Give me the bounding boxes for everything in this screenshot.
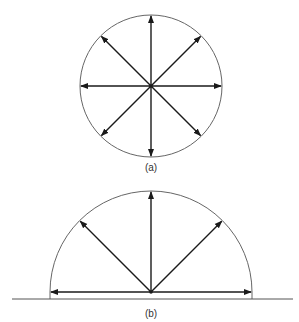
arrow-icon	[151, 221, 222, 292]
center-point	[149, 290, 153, 294]
arrow-icon	[151, 37, 200, 86]
center-point	[149, 84, 153, 88]
hemisphere-diagram	[12, 191, 293, 299]
arrow-icon	[80, 221, 151, 292]
arrow-icon	[102, 86, 151, 135]
arrow-icon	[102, 37, 151, 86]
figure-b-label: (b)	[145, 308, 157, 319]
arrow-icon	[151, 86, 200, 135]
isotropic-circle-diagram	[80, 15, 222, 157]
figure-a-label: (a)	[145, 162, 157, 173]
diagram-canvas	[0, 0, 299, 322]
